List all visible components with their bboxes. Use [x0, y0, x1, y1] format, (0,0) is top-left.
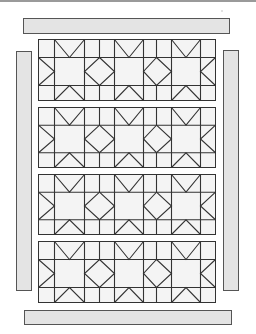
block-row-frame — [39, 40, 216, 101]
border-strip-top — [24, 19, 230, 34]
quilt-layout-diagram — [0, 0, 256, 334]
border-strip-left — [17, 52, 32, 291]
border-strip-right — [224, 51, 239, 291]
block-row — [39, 40, 216, 101]
speck — [221, 10, 222, 11]
block-row — [39, 242, 216, 303]
block-row-frame — [39, 175, 216, 235]
block-row — [39, 108, 216, 168]
block-row-frame — [39, 108, 216, 168]
block-row-frame — [39, 242, 216, 303]
border-strip-bottom — [25, 311, 232, 325]
block-rows — [39, 40, 216, 303]
block-row — [39, 175, 216, 235]
